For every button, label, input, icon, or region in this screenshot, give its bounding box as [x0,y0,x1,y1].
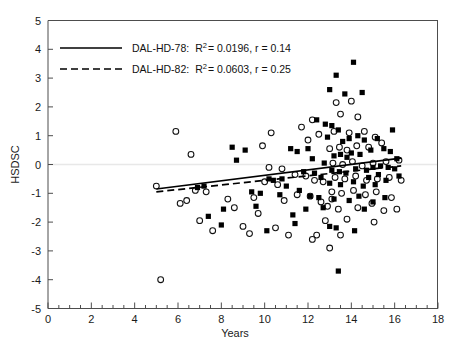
data-point-circle [158,277,164,283]
data-point-circle [173,128,179,134]
data-point-square [258,191,263,196]
legend-r2-1: 0.0196 [217,42,249,54]
x-tick-label: 10 [259,313,271,325]
data-point-circle [344,216,350,222]
data-point-square [396,173,401,178]
data-point-square [362,137,367,142]
data-point-circle [312,177,318,183]
data-point-square [361,184,366,189]
data-point-circle [355,114,361,120]
data-point-square [292,221,297,226]
data-point-square [370,199,375,204]
x-tick-label: 12 [302,313,314,325]
data-point-square [340,139,345,144]
y-tick-label: -1 [31,187,41,199]
data-point-circle [231,205,237,211]
x-tick-label: 4 [132,313,138,325]
data-point-square [366,175,371,180]
data-point-square [230,145,235,150]
data-point-circle [203,189,209,195]
data-point-square [375,136,380,141]
y-tick-label: 2 [35,101,41,113]
legend-label-1: DAL-HD-78: [132,42,189,54]
data-point-circle [337,144,343,150]
data-point-square [206,214,211,219]
x-tick-label: 6 [175,313,181,325]
data-point-circle [389,195,395,201]
data-point-square [349,150,354,155]
data-point-square [347,198,352,203]
data-point-square [329,168,334,173]
data-point-circle [327,146,333,152]
data-point-circle [335,206,341,212]
data-point-square [325,135,330,140]
data-point-circle [371,219,377,225]
data-point-square [331,196,336,201]
data-point-square [327,181,332,186]
data-point-circle [338,111,344,117]
data-point-circle [177,200,183,206]
data-point-square [376,172,381,177]
data-point-circle [281,198,287,204]
data-point-square [351,60,356,65]
data-point-circle [363,192,369,198]
data-point-square [297,188,302,193]
data-point-square [381,146,386,151]
y-tick-label: -3 [31,245,41,257]
data-point-circle [342,176,348,182]
data-point-square [357,152,362,157]
data-point-circle [348,98,354,104]
data-point-circle [268,130,274,136]
data-point-circle [247,231,253,237]
x-tick-label: 16 [389,313,401,325]
data-point-square [295,149,300,154]
data-point-square [342,91,347,96]
legend-entry-1: DAL-HD-78:R2= 0.0196, r = 0.14 [132,41,291,54]
legend-entry-2: DAL-HD-82:R2= 0.0603, r = 0.25 [132,62,291,75]
data-point-circle [338,232,344,238]
data-point-square [355,133,360,138]
data-point-square [373,182,378,187]
y-tick-label: 5 [35,15,41,27]
data-point-square [390,127,395,132]
x-tick-label: 8 [218,313,224,325]
data-point-circle [330,160,336,166]
data-point-square [383,178,388,183]
data-point-square [310,156,315,161]
data-point-square [338,152,343,157]
data-point-circle [316,131,322,137]
data-point-circle [394,206,400,212]
data-point-square [303,207,308,212]
data-point-square [318,175,323,180]
data-point-square [264,228,269,233]
data-point-circle [322,218,328,224]
x-tick-label: 18 [432,313,444,325]
data-point-square [253,204,258,209]
x-tick-label: 2 [88,313,94,325]
data-point-square [308,194,313,199]
data-point-square [221,207,226,212]
data-point-circle [353,173,359,179]
y-tick-label: 1 [35,130,41,142]
data-point-square [334,225,339,230]
legend-r-1: 0.14 [270,42,291,54]
data-point-circle [251,195,257,201]
data-point-circle [299,124,305,130]
data-point-square [305,146,310,151]
data-point-square [327,87,332,92]
data-point-circle [266,164,272,170]
data-point-circle [197,218,203,224]
data-point-square [347,136,352,141]
legend-r-2: 0.25 [270,63,291,75]
data-point-square [321,205,326,210]
data-point-square [362,207,367,212]
x-tick-label: 14 [345,313,357,325]
data-point-circle [309,236,315,242]
data-point-square [277,192,282,197]
data-point-circle [361,128,367,134]
data-point-circle [188,152,194,158]
data-point-circle [286,232,292,238]
data-point-circle [346,130,352,136]
data-point-circle [273,225,279,231]
y-tick-label: -4 [31,274,41,286]
